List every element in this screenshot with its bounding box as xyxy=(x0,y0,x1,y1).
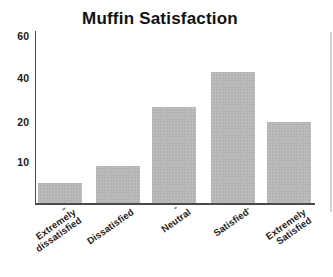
y-tick-label-40: 40 xyxy=(2,72,29,84)
y-tick-label-20: 20 xyxy=(2,116,29,128)
y-tick-label-10: 10 xyxy=(2,156,29,168)
y-tick-label-60: 60 xyxy=(2,30,29,42)
chart-title: Muffin Satisfaction xyxy=(0,9,320,29)
scan-speck-artifact xyxy=(246,207,250,210)
bar-extremely-satisfied xyxy=(267,122,311,203)
bar-dissatisfied xyxy=(96,166,140,203)
plot-area xyxy=(35,31,315,205)
scan-edge-artifact xyxy=(330,32,332,212)
x-tick-label-extremely-dissatisfied: Extremely dissatisfied xyxy=(0,207,83,274)
bar-satisfied xyxy=(211,72,255,203)
bar-extremely-dissatisfied xyxy=(38,183,82,204)
scanned-chart-page: Muffin Satisfaction 10204060Extremely di… xyxy=(0,0,333,277)
bar-neutral xyxy=(152,107,196,203)
scan-speck-artifact xyxy=(174,206,178,209)
